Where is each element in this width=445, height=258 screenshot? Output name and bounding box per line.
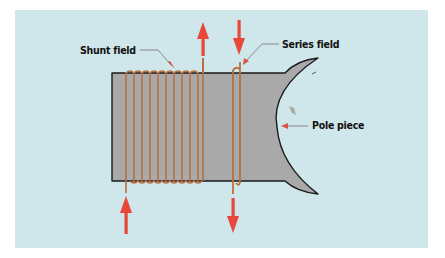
shunt-current-in-arrow-icon (120, 196, 132, 234)
pole-piece-label: Pole piece (312, 119, 364, 132)
shunt-field-label: Shunt field (80, 44, 136, 57)
smudge-mark (289, 106, 296, 115)
speck-mark (312, 72, 316, 74)
series-current-out-arrow-icon (227, 198, 239, 233)
series-field-label: Series field (282, 38, 339, 51)
shunt-current-out-arrow-icon (197, 22, 209, 56)
series-current-in-arrow-icon (233, 20, 245, 55)
shunt-field-leader (140, 50, 175, 69)
field-coil-diagram (0, 0, 445, 258)
pole-piece-leader (281, 123, 308, 129)
diagram-page: Shunt field Series field Pole piece (0, 0, 445, 258)
series-field-leader (243, 44, 279, 65)
